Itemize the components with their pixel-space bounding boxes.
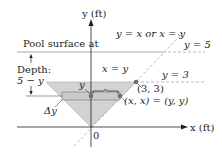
edge-point-label: (x, x) = (y, y) — [124, 95, 188, 106]
arrow-up-icon — [29, 54, 32, 58]
axis-point — [89, 94, 94, 99]
diagonal-label: y = x or x = y — [115, 28, 186, 39]
y-axis-arrow-icon — [89, 19, 94, 26]
half-width-label: x = y — [102, 63, 128, 74]
y3-label: y = 3 — [161, 69, 189, 80]
delta-y-label: Δy — [43, 105, 57, 116]
x-axis-label: x (ft) — [190, 122, 214, 133]
depth-title: Depth: — [17, 64, 51, 75]
pool-diagram: y (ft) x (ft) 0 Pool surface at y = 5 De… — [0, 0, 222, 152]
arrow-down-icon — [29, 91, 32, 95]
surface-line-label: y = 5 — [183, 39, 211, 50]
pool-surface-label: Pool surface at — [23, 38, 98, 49]
origin-label: 0 — [93, 130, 99, 141]
corner-point-label: (3, 3) — [137, 83, 164, 94]
x-axis-arrow-icon — [181, 125, 188, 130]
strip-y-label: y — [78, 79, 85, 90]
y-axis-label: y (ft) — [81, 8, 106, 19]
edge-point — [118, 94, 123, 99]
depth-expression: 5 − y — [17, 75, 44, 86]
